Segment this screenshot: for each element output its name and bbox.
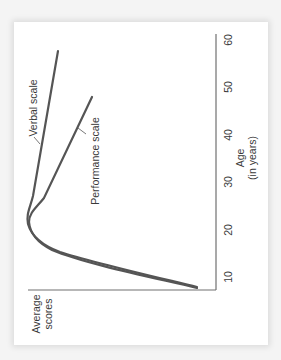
tick-60: 60 [222, 34, 234, 46]
scores-axis-title-line2: scores [42, 299, 54, 330]
verbal-scale-label: Verbal scale [27, 79, 39, 136]
age-scores-chart: Verbal scale Performance scale 10 20 30 … [0, 0, 281, 360]
scores-axis-title-line1: Average [30, 294, 42, 333]
tick-10: 10 [222, 271, 234, 283]
age-axis-unit: (in years) [246, 136, 258, 180]
tick-40: 40 [222, 129, 234, 141]
tick-20: 20 [222, 224, 234, 236]
tick-30: 30 [222, 176, 234, 188]
performance-scale-label: Performance scale [89, 117, 101, 205]
age-axis-title: Age [234, 149, 246, 168]
performance-leader [78, 128, 86, 134]
verbal-leader [34, 137, 40, 144]
verbal-scale-line [27, 51, 197, 287]
performance-scale-line [29, 97, 197, 288]
tick-50: 50 [222, 81, 234, 93]
